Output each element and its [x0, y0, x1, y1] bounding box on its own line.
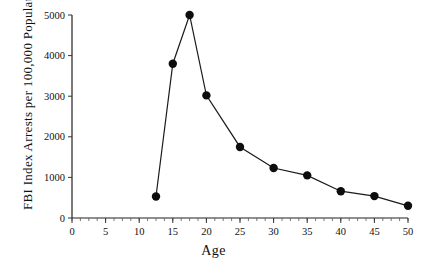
chart-page: FBI Index Arrests per 100,000 Population… [0, 0, 427, 264]
y-tick-label: 1000 [44, 172, 65, 183]
y-tick-label: 2000 [44, 131, 65, 142]
y-tick-label: 0 [60, 213, 65, 224]
series-line [156, 15, 408, 206]
data-point-marker [185, 11, 193, 19]
x-tick-label: 15 [168, 226, 179, 237]
data-point-marker [337, 187, 345, 195]
x-tick-label: 35 [302, 226, 313, 237]
data-point-marker [169, 60, 177, 68]
data-point-marker [404, 202, 412, 210]
x-tick-label: 40 [336, 226, 347, 237]
x-tick-label: 50 [403, 226, 414, 237]
x-tick-label: 25 [235, 226, 246, 237]
data-point-marker [152, 192, 160, 200]
x-tick-label: 20 [201, 226, 212, 237]
x-tick-label: 30 [268, 226, 279, 237]
y-tick-label: 4000 [44, 50, 65, 61]
y-tick-label: 5000 [44, 10, 65, 21]
x-tick-label: 45 [369, 226, 380, 237]
data-point-marker [236, 143, 244, 151]
data-point-marker [269, 164, 277, 172]
data-series [152, 11, 412, 210]
data-point-marker [370, 192, 378, 200]
x-axis: 05101520253035404550 [69, 218, 413, 237]
x-tick-label: 0 [69, 226, 74, 237]
data-point-marker [303, 171, 311, 179]
plot-area: 010002000300040005000 051015202530354045… [0, 0, 427, 264]
y-tick-label: 3000 [44, 91, 65, 102]
x-tick-label: 5 [103, 226, 108, 237]
x-tick-label: 10 [134, 226, 145, 237]
line-chart-figure: FBI Index Arrests per 100,000 Population… [0, 0, 427, 264]
data-point-marker [202, 91, 210, 99]
y-axis: 010002000300040005000 [44, 10, 72, 224]
